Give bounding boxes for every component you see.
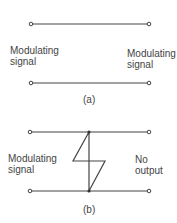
fig-a-right-label-line2: signal — [127, 59, 176, 70]
fig-a-left-label-line1: Modulating — [10, 45, 59, 56]
fig-b-right-label-line1: No — [135, 154, 163, 165]
fig-b-left-label: Modulating signal — [8, 153, 57, 175]
diagram-lines — [0, 0, 177, 223]
fig-b-right-label: No output — [135, 154, 163, 176]
fig-a-left-label-line2: signal — [10, 56, 59, 67]
fig-b-left-label-line2: signal — [8, 164, 57, 175]
fig-a-right-label-line1: Modulating — [127, 48, 176, 59]
fig-a-right-label: Modulating signal — [127, 48, 176, 70]
fig-b-right-label-line2: output — [135, 165, 163, 176]
fig-a-caption: (a) — [83, 94, 95, 105]
fig-b-caption: (b) — [83, 204, 95, 215]
fig-b-left-label-line1: Modulating — [8, 153, 57, 164]
fig-a-left-label: Modulating signal — [10, 45, 59, 67]
